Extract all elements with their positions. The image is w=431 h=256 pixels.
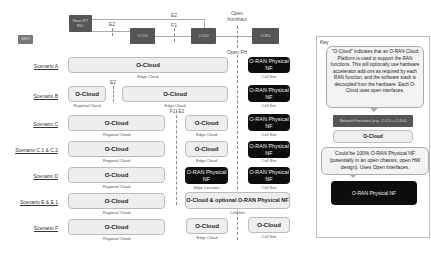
scenario-e-cell-ocloud-nf: O-Cloud & optional O-RAN Physical NF [185,192,290,209]
scenario-c1-c2-regional-caption: Regional Cloud [68,158,165,163]
f1-separator [176,110,177,205]
scenario-c1-c2-edge-ocloud: O-Cloud [185,141,228,157]
scenario-c-label: Scenario C [0,121,58,127]
ocu-odu-line [155,36,191,37]
scenario-c-edge-ocloud: O-Cloud [185,115,228,131]
scenario-c1-c2-physical-nf: O-RAN Physical NF [248,141,290,158]
scenario-a-ocloud-caption: Edge Cloud [68,74,228,79]
scenario-b-physical-caption: Cell Site [248,103,290,108]
scenario-d-regional-ocloud: O-Cloud [68,167,165,183]
o-cu-box: O-CU [130,28,155,44]
scenario-f-label: Scenario F [0,225,58,231]
scenario-c-regional-ocloud: O-Cloud [68,115,165,131]
physical-nf-description-bubble: Could be 100% O-RAN Physical NF (potenti… [321,147,429,175]
scenario-f-cell-ocloud: O-Cloud [248,217,290,233]
ric-ocu-line [92,31,130,32]
scenario-c-edge-caption: Edge Cloud [185,132,228,137]
scenario-f-regional-caption: Regional Cloud [68,236,165,241]
odu-oru-line [216,36,252,37]
scenario-f-cell-caption: Cell Site [248,234,290,239]
scenario-b-interface-label: E2 [108,79,118,85]
key-ocloud-box: O-Cloud [333,130,413,143]
scenario-e-regional-caption: Regional Cloud [68,210,165,215]
scenario-a-label: Scenario A [0,63,58,69]
ocloud-description-bubble: "O-Cloud" indicates that an O-RAN Cloud … [326,46,424,108]
scenario-e-cell-caption: Cell Site [185,210,290,215]
scenario-d-label: Scenario D [0,173,58,179]
scenario-b-regional-caption: Regional Cloud [66,103,108,108]
scenario-c-regional-caption: Regional Cloud [68,132,165,137]
near-rt-ric-box: Near-RT RIC [69,15,92,32]
scenario-c1-c2-physical-caption: Cell Site [248,158,290,163]
scenario-f-regional-ocloud: O-Cloud [68,219,165,235]
smo-box: SMO [18,35,33,44]
key-panel: Key "O-Cloud" indicates that an O-RAN Cl… [316,36,430,238]
scenario-d-cell-physical-nf: O-RAN Physical NF [248,167,290,184]
scenario-f-edge-ocloud: O-Cloud [186,218,228,234]
open-fronthaul-dash [237,26,238,48]
scenario-d-regional-caption: Regional Cloud [68,184,165,189]
scenario-f-edge-caption: Edge Cloud [186,235,228,240]
scenario-d-cell-caption: Cell Site [248,185,290,190]
f1-dash [174,28,175,42]
network-function-box: Network Functions (e.g., O-CU + O-DU) [333,115,413,127]
bubble-pointer [369,107,379,112]
scenario-c1-c2-regional-ocloud: O-Cloud [68,141,165,157]
scenario-c1-c2-edge-caption: Edge Cloud [185,158,228,163]
e2-left-label: E2 [106,21,118,27]
scenario-e-regional-ocloud: O-Cloud [68,193,165,209]
ric-odu-connector [204,19,205,28]
o-ru-box: O-RU [252,28,279,44]
scenario-a-physical-caption: Cell Site [248,74,290,79]
scenario-d-edge-physical-nf: O-RAN Physical NF [185,167,228,184]
e2-left-dash [112,28,113,36]
scenario-b-label: Scenario B [0,93,58,99]
e2-top-label: E2 [168,12,180,18]
scenario-c-interface-label: F1, E2 [166,108,188,114]
scenario-b-regional-ocloud: O-Cloud [68,86,106,102]
scenario-c-physical-caption: Cell Site [248,132,290,137]
scenario-d-edge-caption: Edge Location [185,185,228,190]
scenario-c1-c2-label: Scenario C.1 & C.2 [0,147,58,153]
key-title: Key [320,39,329,45]
scenario-b-e2-dash [113,86,114,102]
bubble-pointer-2 [349,174,357,178]
open-fronthaul-label: Open fronthaul [224,11,250,22]
o-du-box: O-DU [191,28,216,44]
scenario-e-label: Scenario E & E.1 [0,199,58,205]
scenario-b-edge-ocloud: O-Cloud [122,86,228,102]
scenario-a-ocloud: O-Cloud [68,57,228,73]
scenario-b-physical-nf: O-RAN Physical NF [248,85,290,102]
ric-top-line [92,19,204,20]
scenario-c-physical-nf: O-RAN Physical NF [248,114,290,131]
key-physical-nf-box: O-RAN Physical NF [331,181,417,205]
scenario-a-physical-nf: O-RAN Physical NF [248,57,290,73]
